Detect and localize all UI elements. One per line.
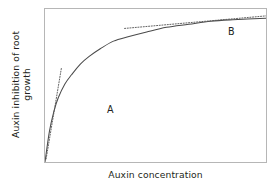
chart-figure: Auxin inhibition of root growth A B Auxi… (0, 0, 279, 192)
x-axis-label: Auxin concentration (44, 169, 267, 181)
tangent-line-a (46, 67, 61, 159)
point-label-a: A (107, 105, 114, 115)
y-axis-label-line-1: Auxin inhibition of root (11, 30, 22, 137)
tangent-line-b (125, 16, 266, 29)
plot-area: A B (44, 8, 267, 163)
point-label-b: B (228, 27, 235, 37)
y-axis-label: Auxin inhibition of root growth (0, 0, 44, 168)
y-axis-label-line-2: growth (22, 30, 33, 137)
y-axis-label-text: Auxin inhibition of root growth (11, 30, 34, 137)
curve-auxin-response (45, 18, 266, 162)
